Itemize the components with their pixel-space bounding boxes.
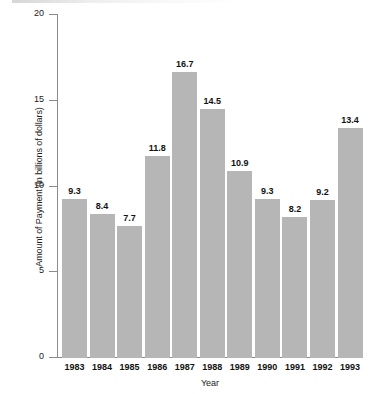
bar-group[interactable]: 7.7 xyxy=(117,11,142,358)
bar-group[interactable]: 16.7 xyxy=(172,11,197,358)
y-axis-tick xyxy=(49,14,58,15)
bar-group[interactable]: 8.4 xyxy=(90,11,115,358)
clipped-title-artifact xyxy=(12,0,242,3)
y-axis-tick-label: 5 xyxy=(0,265,44,275)
y-axis-tick-label: 15 xyxy=(0,94,44,104)
bar-group[interactable]: 9.2 xyxy=(310,11,335,358)
bar[interactable] xyxy=(338,128,363,358)
bar[interactable] xyxy=(145,156,170,358)
bar-chart: Amount of Payment (in billions of dollar… xyxy=(0,0,379,394)
y-axis-tick xyxy=(49,271,58,272)
bar[interactable] xyxy=(310,200,335,358)
y-axis-tick-label: 0 xyxy=(0,351,44,361)
bar-group[interactable]: 8.2 xyxy=(282,11,307,358)
bar-group[interactable]: 10.9 xyxy=(227,11,252,358)
x-axis-tick-label: 1993 xyxy=(330,362,371,372)
bar[interactable] xyxy=(282,217,307,358)
bar[interactable] xyxy=(172,72,197,358)
bar-group[interactable]: 9.3 xyxy=(62,11,87,358)
plot-area: 9.38.47.711.816.714.510.99.38.29.213.4 xyxy=(58,10,363,358)
bar-group[interactable]: 13.4 xyxy=(338,11,363,358)
bar-value-label: 13.4 xyxy=(330,115,371,125)
bar-group[interactable]: 14.5 xyxy=(200,11,225,358)
bar[interactable] xyxy=(117,226,142,358)
bar-group[interactable]: 9.3 xyxy=(255,11,280,358)
y-axis-tick-label: 20 xyxy=(0,8,44,18)
y-axis-tick-label: 10 xyxy=(0,180,44,190)
bar[interactable] xyxy=(255,199,280,358)
bar[interactable] xyxy=(62,199,87,358)
y-axis-tick xyxy=(49,357,58,358)
y-axis-tick xyxy=(49,100,58,101)
bar[interactable] xyxy=(200,109,225,358)
x-axis-title: Year xyxy=(57,378,363,388)
bar[interactable] xyxy=(90,214,115,358)
bar[interactable] xyxy=(227,171,252,358)
